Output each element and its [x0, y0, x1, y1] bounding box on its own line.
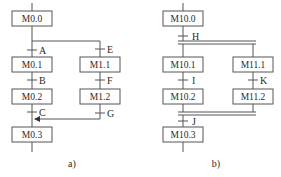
- transition-label: G: [107, 108, 114, 119]
- transition-label: K: [260, 75, 268, 86]
- step-label: M10.1: [170, 60, 195, 70]
- step-label: M11.2: [241, 92, 266, 102]
- step-label: M1.1: [90, 60, 111, 70]
- step-label: M10.2: [170, 92, 195, 102]
- step-label: M0.3: [22, 130, 43, 140]
- diagram-a-text: M0.0 M0.1 M0.2 M0.3 M1.1 M1.2 A B C E F …: [22, 14, 114, 170]
- step-label: M10.0: [170, 14, 195, 24]
- caption-a: a): [68, 158, 76, 170]
- step-label: M0.1: [22, 60, 43, 70]
- step-label: M0.2: [22, 92, 43, 102]
- transition-label: J: [192, 116, 196, 127]
- transition-label: C: [39, 107, 46, 118]
- transition-label: F: [107, 75, 113, 86]
- step-label: M10.3: [170, 130, 195, 140]
- step-label: M0.0: [22, 14, 43, 24]
- caption-b: b): [212, 158, 220, 170]
- transition-label: B: [39, 75, 46, 86]
- diagram-b-text: M10.0 M10.1 M10.2 M10.3 M11.1 M11.2 H I …: [170, 14, 268, 170]
- transition-label: I: [192, 75, 195, 86]
- transition-label: E: [107, 44, 113, 55]
- step-label: M11.1: [241, 60, 266, 70]
- transition-label: A: [39, 45, 47, 56]
- sfc-diagrams: M0.0 M0.1 M0.2 M0.3 M1.1 M1.2 A B C E F …: [0, 0, 281, 177]
- transition-label: H: [192, 31, 199, 42]
- step-label: M1.2: [90, 92, 111, 102]
